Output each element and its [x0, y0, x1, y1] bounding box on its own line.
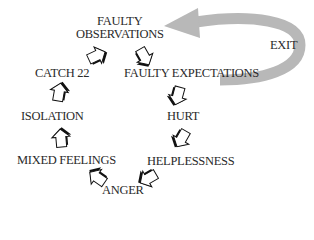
node-anger: ANGER — [102, 184, 144, 197]
arrow-mixed-to-isolation-icon — [51, 127, 72, 148]
node-faulty-observations-line2: OBSERVATIONS — [76, 28, 164, 41]
arrow-hurt-to-helplessness-icon — [167, 126, 194, 153]
node-isolation: ISOLATION — [21, 110, 84, 123]
node-faulty-expectations: FAULTY EXPECTATIONS — [124, 67, 259, 80]
exit-label: EXIT — [270, 39, 297, 52]
arrow-isolation-to-catch22-icon — [49, 80, 72, 103]
arrow-expectations-to-hurt-icon — [165, 85, 189, 109]
node-hurt: HURT — [167, 110, 199, 123]
node-helplessness: HELPLESSNESS — [147, 155, 234, 168]
node-catch-22: CATCH 22 — [35, 67, 89, 80]
node-mixed-feelings: MIXED FEELINGS — [17, 154, 116, 167]
